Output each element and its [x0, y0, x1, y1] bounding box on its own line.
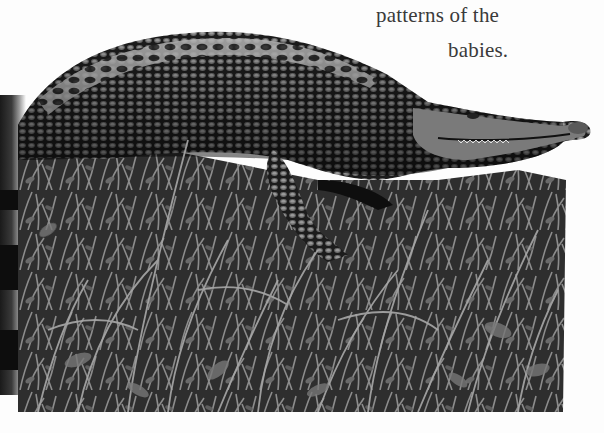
crocodile-snout-tip	[568, 122, 588, 134]
crocodile-eye	[467, 113, 479, 119]
book-page: patterns of the babies.	[0, 0, 604, 433]
body-text-line: patterns of the	[376, 3, 499, 28]
crocodile-photo	[18, 30, 593, 412]
